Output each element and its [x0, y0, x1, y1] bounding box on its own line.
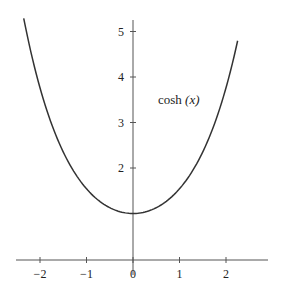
x-tick-label: −2: [34, 267, 47, 281]
y-tick-label: 2: [118, 161, 124, 175]
y-tick-label: 3: [118, 116, 124, 130]
cosh-curve: [24, 18, 238, 213]
x-tick-label: 0: [130, 267, 136, 281]
axes: [16, 20, 268, 275]
x-tick-label: 1: [177, 267, 183, 281]
y-tick-label: 5: [118, 25, 124, 39]
y-tick-label: 4: [118, 70, 124, 84]
x-ticks: −2−1012: [34, 257, 229, 281]
curve-label: cosh (x): [158, 92, 200, 107]
x-tick-label: −1: [80, 267, 93, 281]
cosh-chart: −2−1012 2345 cosh (x): [0, 0, 282, 294]
x-tick-label: 2: [223, 267, 229, 281]
